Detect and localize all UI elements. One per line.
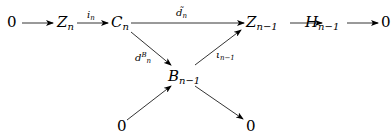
- node-H-n-1: Hn−1: [305, 15, 339, 32]
- node-base: C: [111, 13, 122, 31]
- label-subscript: n−1: [220, 54, 235, 62]
- label-d-n-B: dBn: [135, 52, 151, 65]
- node-base: 0: [381, 13, 391, 31]
- node-subscript: n: [67, 21, 73, 32]
- node-C-n: Cn: [111, 15, 129, 32]
- node-Z-n: Zn: [57, 15, 74, 32]
- node-base: 0: [117, 117, 127, 135]
- label-subscript: n: [182, 12, 187, 20]
- node-B-n-1: Bn−1: [168, 69, 200, 86]
- label-subscript: n: [147, 57, 152, 65]
- label-iota-n-1: ιn−1: [216, 50, 235, 62]
- node-base: B: [168, 67, 179, 85]
- arrow-Bn1-to-zero: [195, 86, 243, 119]
- node-base: H: [305, 13, 318, 31]
- node-zero-right: 0: [381, 15, 391, 30]
- arrow-zero-to-Bn1: [127, 86, 171, 120]
- node-subscript: n−1: [179, 75, 200, 86]
- node-Z-n-1: Zn−1: [246, 15, 278, 32]
- node-base: 0: [246, 117, 256, 135]
- node-subscript: n−1: [318, 21, 339, 32]
- node-zero-left: 0: [7, 15, 17, 30]
- node-subscript: n−1: [256, 21, 277, 32]
- node-subscript: n: [122, 21, 128, 32]
- label-i-n: in: [87, 10, 95, 22]
- label-d-tilde-n: d̃n: [176, 8, 187, 20]
- node-zero-bottom-left: 0: [117, 119, 127, 134]
- node-base: Z: [246, 13, 256, 31]
- node-base: Z: [57, 13, 67, 31]
- node-zero-bottom-right: 0: [246, 119, 256, 134]
- node-base: 0: [7, 13, 17, 31]
- label-subscript: n: [90, 14, 95, 22]
